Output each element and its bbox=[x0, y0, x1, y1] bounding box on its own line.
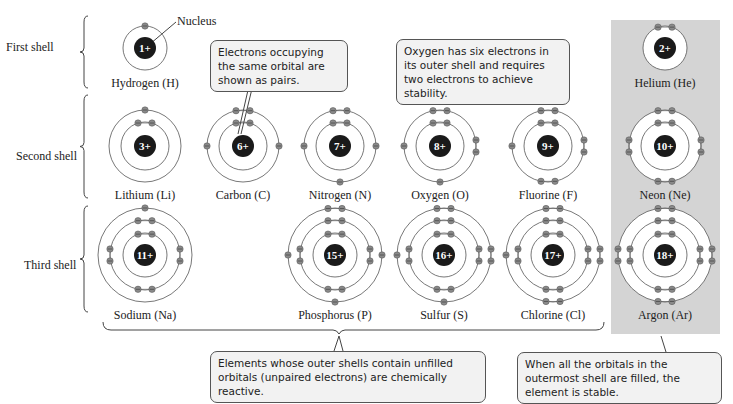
third-shell-bracket bbox=[80, 206, 88, 312]
nucleus-charge: 6+ bbox=[237, 140, 249, 152]
atom-sulfur: 16+ bbox=[394, 205, 494, 305]
first-shell-bracket bbox=[80, 16, 88, 88]
nucleus-charge: 16+ bbox=[435, 249, 452, 261]
nucleus-charge: 10+ bbox=[656, 140, 673, 152]
nucleus-charge: 18+ bbox=[656, 249, 673, 261]
nucleus-charge: 2+ bbox=[659, 42, 671, 54]
nucleus-label: Nucleus bbox=[177, 14, 216, 29]
reactive-pointer bbox=[334, 336, 343, 351]
atom-fluorine: 9+ bbox=[509, 107, 587, 184]
atom-hydrogen: 1+ bbox=[123, 23, 167, 70]
atom-nitrogen: 7+ bbox=[301, 107, 379, 185]
atom-label: Sodium (Na) bbox=[114, 308, 176, 323]
second-shell-label: Second shell bbox=[16, 149, 77, 164]
callout-stable: When all the orbitals in the outermost s… bbox=[517, 352, 722, 404]
atom-label: Phosphorus (P) bbox=[298, 308, 372, 323]
atom-label: Carbon (C) bbox=[216, 188, 270, 203]
atom-carbon: 6+ bbox=[204, 107, 282, 182]
atom-label: Helium (He) bbox=[635, 76, 696, 91]
atom-label: Lithium (Li) bbox=[115, 188, 175, 203]
stable-pointer bbox=[661, 336, 666, 352]
third-shell-label: Third shell bbox=[24, 258, 76, 273]
atom-oxygen: 8+ bbox=[401, 107, 479, 185]
nucleus-charge: 3+ bbox=[139, 140, 151, 152]
atom-chlorine: 17+ bbox=[503, 205, 603, 304]
atom-neon: 10+ bbox=[626, 107, 704, 184]
callout-oxygen: Oxygen has six electrons in its outer sh… bbox=[396, 39, 570, 105]
nucleus-charge: 7+ bbox=[334, 140, 346, 152]
callout-reactive: Elements whose outer shells contain unfi… bbox=[210, 351, 486, 403]
nucleus-charge: 9+ bbox=[542, 140, 554, 152]
second-shell-bracket bbox=[80, 95, 88, 198]
atom-label: Fluorine (F) bbox=[519, 188, 577, 203]
atom-argon: 18+ bbox=[615, 205, 715, 304]
atom-label: Chlorine (Cl) bbox=[521, 308, 585, 323]
nucleus-charge: 11+ bbox=[137, 249, 154, 261]
nucleus-charge: 15+ bbox=[326, 249, 343, 261]
callout-pairs: Electrons occupying the same orbital are… bbox=[210, 40, 348, 92]
first-shell-label: First shell bbox=[6, 40, 54, 55]
reactive-bracket bbox=[103, 322, 604, 334]
atom-sodium: 11+ bbox=[98, 205, 192, 302]
atom-label: Sulfur (S) bbox=[420, 308, 468, 323]
nucleus-charge: 1+ bbox=[139, 42, 151, 54]
atom-label: Hydrogen (H) bbox=[111, 76, 179, 91]
atom-label: Argon (Ar) bbox=[638, 308, 692, 323]
brackets bbox=[80, 16, 666, 352]
atom-label: Neon (Ne) bbox=[640, 188, 691, 203]
atom-label: Nitrogen (N) bbox=[309, 188, 371, 203]
atom-lithium: 3+ bbox=[109, 107, 181, 182]
nucleus-pointer bbox=[150, 22, 176, 44]
atom-helium: 2+ bbox=[643, 24, 687, 70]
atom-phosphorus: 15+ bbox=[285, 205, 385, 305]
nucleus-charge: 17+ bbox=[544, 249, 561, 261]
atom-label: Oxygen (O) bbox=[411, 188, 469, 203]
nucleus-charge: 8+ bbox=[434, 140, 446, 152]
